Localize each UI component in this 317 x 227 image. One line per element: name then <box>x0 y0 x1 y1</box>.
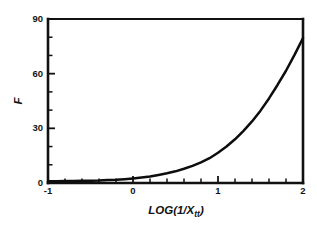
y-tick-label: 60 <box>32 68 43 79</box>
y-tick-label: 0 <box>38 177 43 188</box>
y-axis-title: F <box>12 97 24 105</box>
figure-container: 0306090 -1012 LOG(1/Xtt) F <box>0 0 317 227</box>
y-tick-label: 30 <box>32 122 43 133</box>
x-tick-label: 2 <box>300 185 305 196</box>
y-tick-label: 90 <box>32 13 43 24</box>
chart-canvas: 0306090 -1012 LOG(1/Xtt) F <box>0 0 317 227</box>
x-tick-label: 1 <box>215 185 221 196</box>
x-tick-label: -1 <box>44 185 53 196</box>
y-axis-title-group: F <box>12 97 24 105</box>
x-tick-label: 0 <box>130 185 135 196</box>
